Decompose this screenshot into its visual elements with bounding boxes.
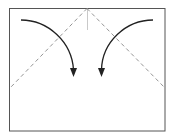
origami-diagram: [0, 0, 173, 138]
